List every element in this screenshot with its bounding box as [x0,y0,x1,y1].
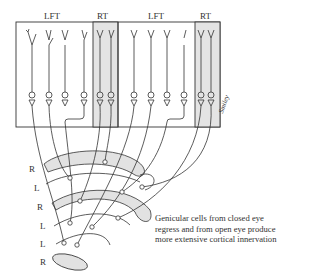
layer-label-2: L [34,184,40,193]
column-label-lft-2: LFT [148,12,164,21]
figure-caption: Genicular cells from closed eye regress … [155,213,280,245]
layer-label-3: R [37,203,43,212]
column-label-lft-1: LFT [44,12,60,21]
layer-label-6: R [40,258,46,267]
layer-label-1: R [29,165,35,174]
layer-label-4: L [40,222,46,231]
column-label-rt-1: RT [97,12,108,21]
column-label-rt-2: RT [200,12,211,21]
rt-column-1 [93,22,118,127]
layer-label-5: L [40,240,46,249]
lgn-layers [44,151,154,274]
